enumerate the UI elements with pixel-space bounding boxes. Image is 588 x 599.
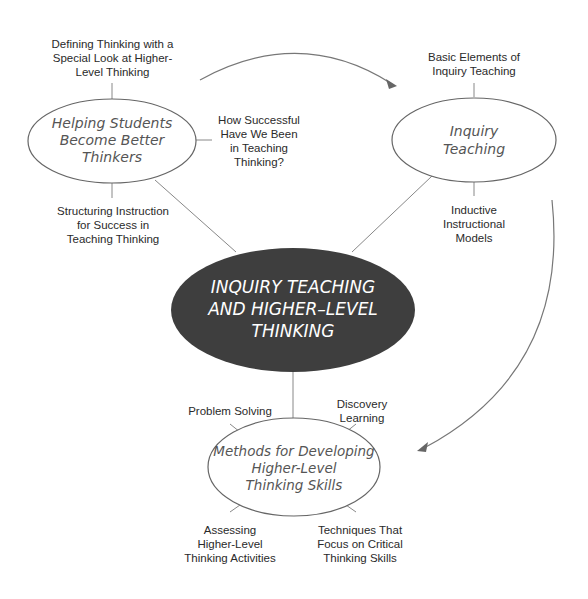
subtopic-discovery-learning: Discovery Learning (322, 397, 402, 425)
node-helping-label: Helping Students Become Better Thinkers (36, 115, 188, 166)
subtopic-problem-solving: Problem Solving (180, 404, 280, 418)
subtopic-inductive-models: Inductive Instructional Models (428, 203, 520, 245)
subtopic-basic-elements: Basic Elements of Inquiry Teaching (412, 50, 536, 78)
node-inquiry-label: Inquiry Teaching (424, 122, 524, 158)
center-label: INQUIRY TEACHING AND HIGHER–LEVEL THINKI… (183, 276, 403, 342)
subtopic-structuring-instruction: Structuring Instruction for Success in T… (28, 204, 198, 246)
connector-inquiry (352, 176, 432, 252)
subtopic-assessing-activities: Assessing Higher-Level Thinking Activiti… (170, 523, 290, 565)
node-methods-label: Methods for Developing Higher-Level Thin… (206, 443, 382, 494)
arrowhead-icon (386, 79, 397, 89)
subtopic-how-successful: How Successful Have We Been in Teaching … (208, 113, 310, 169)
tick-methods-bl (230, 505, 240, 512)
subtopic-critical-thinking-techniques: Techniques That Focus on Critical Thinki… (306, 523, 414, 565)
subtopic-defining-thinking: Defining Thinking with a Special Look at… (20, 37, 205, 79)
arrow-helping-to-inquiry (200, 53, 392, 84)
arrowhead-icon (417, 442, 428, 452)
